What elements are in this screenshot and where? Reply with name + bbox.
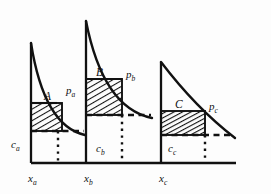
figure-container: A pa ca xa B pb cb xb C pc cc xc bbox=[0, 0, 271, 194]
figure-background bbox=[0, 0, 271, 194]
profit-rect-b bbox=[86, 79, 122, 115]
area-label-c: C bbox=[175, 98, 183, 110]
area-label-b: B bbox=[96, 66, 103, 78]
profit-rect-c bbox=[161, 111, 205, 135]
economics-diagram: A pa ca xa B pb cb xb C pc cc xc bbox=[0, 0, 271, 194]
profit-rect-a bbox=[31, 103, 62, 131]
area-label-a: A bbox=[43, 90, 52, 102]
